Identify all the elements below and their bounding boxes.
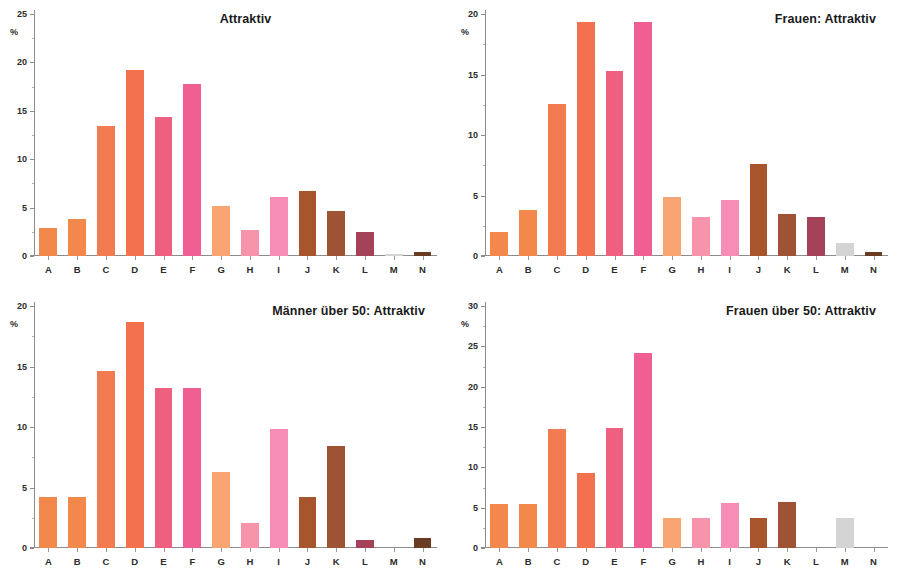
bar-group: E xyxy=(600,306,629,548)
x-tick-mark xyxy=(250,256,251,260)
x-tick-mark xyxy=(250,548,251,552)
bar-group: C xyxy=(92,14,121,256)
bar-group: N xyxy=(859,306,888,548)
x-tick-mark xyxy=(307,256,308,260)
x-tick-label: I xyxy=(264,264,293,275)
bar-group: A xyxy=(485,306,514,548)
y-tick-label: 15 xyxy=(468,422,478,432)
x-tick-mark xyxy=(586,256,587,260)
x-tick-label: E xyxy=(600,556,629,567)
x-tick-label: H xyxy=(686,556,715,567)
y-tick-label: 10 xyxy=(17,154,27,164)
bar-group: A xyxy=(34,306,63,548)
x-tick-label: K xyxy=(322,264,351,275)
bar xyxy=(577,22,595,256)
y-tick-label: 5 xyxy=(473,503,478,513)
bar-group: N xyxy=(408,306,437,548)
x-tick-mark xyxy=(787,548,788,552)
x-tick-label: J xyxy=(293,264,322,275)
x-tick-label: G xyxy=(658,556,687,567)
bar-group: H xyxy=(235,14,264,256)
x-tick-label: C xyxy=(543,556,572,567)
x-tick-label: K xyxy=(322,556,351,567)
bar-group: A xyxy=(34,14,63,256)
bar-group: K xyxy=(773,306,802,548)
bar-group: C xyxy=(543,306,572,548)
bar xyxy=(692,217,710,256)
x-tick-label: B xyxy=(63,556,92,567)
x-tick-label: L xyxy=(351,556,380,567)
x-tick-mark xyxy=(77,256,78,260)
bar xyxy=(39,497,57,548)
y-tick-mark xyxy=(481,548,485,549)
bar-group: B xyxy=(63,14,92,256)
x-tick-mark xyxy=(845,256,846,260)
bar xyxy=(39,228,57,256)
y-tick-label: 5 xyxy=(473,191,478,201)
x-tick-mark xyxy=(615,548,616,552)
x-tick-mark xyxy=(336,256,337,260)
chart-panel-frauen-ueber-50: Frauen über 50: Attraktiv % 051015202530… xyxy=(451,292,902,584)
x-tick-label: J xyxy=(744,556,773,567)
x-tick-label: F xyxy=(178,556,207,567)
y-tick-label: 0 xyxy=(22,543,27,553)
bar xyxy=(577,473,595,548)
y-tick-label: 20 xyxy=(468,9,478,19)
x-tick-label: E xyxy=(600,264,629,275)
y-tick-label: 25 xyxy=(468,341,478,351)
y-axis-unit-label: % xyxy=(461,27,469,37)
x-tick-label: F xyxy=(178,264,207,275)
x-tick-mark xyxy=(730,548,731,552)
x-tick-label: A xyxy=(34,556,63,567)
y-axis-unit-label: % xyxy=(10,27,18,37)
x-tick-mark xyxy=(423,548,424,552)
x-tick-mark xyxy=(874,548,875,552)
bar xyxy=(270,429,288,548)
x-tick-mark xyxy=(279,548,280,552)
bar xyxy=(155,388,173,548)
x-tick-mark xyxy=(557,548,558,552)
x-tick-mark xyxy=(279,256,280,260)
x-tick-mark xyxy=(221,256,222,260)
bar-series: ABCDEFGHIJKLMN xyxy=(34,306,437,548)
y-tick-label: 5 xyxy=(22,203,27,213)
x-tick-label: M xyxy=(379,264,408,275)
x-tick-mark xyxy=(528,256,529,260)
x-tick-mark xyxy=(336,548,337,552)
y-tick-label: 0 xyxy=(473,543,478,553)
bar-group: N xyxy=(859,14,888,256)
plot-area: 05101520 ABCDEFGHIJKLMN xyxy=(34,306,437,548)
x-tick-label: H xyxy=(686,264,715,275)
bar-group: L xyxy=(802,14,831,256)
x-tick-mark xyxy=(164,548,165,552)
x-tick-label: C xyxy=(92,556,121,567)
x-tick-label: L xyxy=(802,264,831,275)
y-tick-label: 0 xyxy=(473,251,478,261)
bar-group: F xyxy=(178,14,207,256)
bar-group: H xyxy=(686,306,715,548)
x-tick-label: I xyxy=(264,556,293,567)
x-tick-mark xyxy=(106,548,107,552)
bar xyxy=(212,206,230,256)
x-tick-label: K xyxy=(773,264,802,275)
bar xyxy=(414,538,432,548)
x-tick-mark xyxy=(701,548,702,552)
x-tick-mark xyxy=(816,548,817,552)
x-tick-mark xyxy=(758,548,759,552)
x-tick-label: F xyxy=(629,264,658,275)
bar xyxy=(778,502,796,548)
x-tick-label: B xyxy=(63,264,92,275)
bar-group: K xyxy=(322,306,351,548)
x-tick-mark xyxy=(365,256,366,260)
x-tick-label: D xyxy=(120,264,149,275)
bar-group: M xyxy=(830,306,859,548)
bar-group: B xyxy=(514,14,543,256)
bar-group: I xyxy=(264,306,293,548)
x-tick-label: J xyxy=(744,264,773,275)
bar-group: M xyxy=(830,14,859,256)
bar-group: D xyxy=(571,14,600,256)
bar xyxy=(68,219,86,256)
bar-group: H xyxy=(686,14,715,256)
y-tick-label: 15 xyxy=(468,70,478,80)
bar-group: L xyxy=(351,14,380,256)
